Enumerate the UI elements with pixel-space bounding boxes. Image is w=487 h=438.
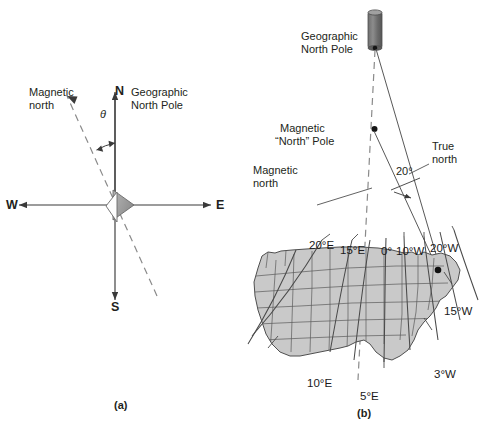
observer-location-dot bbox=[435, 267, 442, 274]
panel-a-magnetic-north-label-line1: Magnetic bbox=[29, 86, 74, 99]
geographic-north-pole-cylinder bbox=[368, 10, 382, 51]
declination-label-3W: 3°W bbox=[434, 368, 456, 380]
panel-b-earth-declination-diagram bbox=[248, 10, 478, 380]
declination-label-15W: 15°W bbox=[444, 305, 472, 317]
declination-label-0: 0° bbox=[381, 245, 392, 257]
magnetic-north-pole-label-line2: “North” Pole bbox=[275, 135, 334, 148]
true-north-sight-line bbox=[376, 49, 440, 268]
compass-north-letter: N bbox=[115, 84, 124, 98]
magnetic-north-dashed-line bbox=[67, 96, 157, 296]
declination-label-10E: 10°E bbox=[307, 377, 332, 389]
compass-east-letter: E bbox=[216, 198, 224, 212]
compass-west-letter: W bbox=[6, 198, 18, 212]
declination-label-10W: 10°W bbox=[396, 245, 424, 257]
declination-label-15E: 15°E bbox=[340, 244, 365, 256]
figure-vector-canvas bbox=[0, 0, 487, 438]
compass-south-letter: S bbox=[111, 300, 119, 314]
panel-a-geographic-pole-label-line1: Geographic bbox=[131, 86, 188, 99]
panel-b-tag: (b) bbox=[357, 407, 371, 420]
theta-angle-label: θ bbox=[100, 108, 106, 121]
declination-label-20W: 20°W bbox=[430, 242, 458, 254]
declination-label-20E: 20°E bbox=[309, 239, 334, 251]
panel-b-geographic-pole-label-line1: Geographic bbox=[301, 30, 358, 43]
panel-a-compass-diagram bbox=[19, 92, 211, 300]
true-north-label-line2: north bbox=[432, 153, 457, 166]
compass-needle-light-half bbox=[106, 192, 117, 222]
true-north-label-line1: True bbox=[432, 140, 454, 153]
theta-arc-arrow-left bbox=[97, 146, 104, 152]
panel-b-geographic-pole-label-line2: North Pole bbox=[301, 43, 353, 56]
magnetic-declination-figure: Magnetic north Geographic North Pole θ N… bbox=[0, 0, 487, 438]
panel-a-geographic-pole-label-line2: North Pole bbox=[131, 99, 183, 112]
declination-angle-label: 20° bbox=[396, 165, 413, 178]
panel-a-tag: (a) bbox=[114, 399, 127, 412]
panel-a-magnetic-north-label-line2: north bbox=[29, 99, 54, 112]
declination-label-5E: 5°E bbox=[360, 390, 379, 402]
magnetic-north-leader bbox=[317, 188, 372, 205]
theta-arc-arrow-right bbox=[109, 141, 116, 148]
panel-b-magnetic-north-label-line1: Magnetic bbox=[253, 164, 298, 177]
panel-b-magnetic-north-label-line2: north bbox=[253, 177, 278, 190]
magnetic-north-pole-label-line1: Magnetic bbox=[280, 122, 325, 135]
